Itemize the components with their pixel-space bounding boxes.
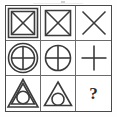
double-triangle-circle-icon (6, 77, 40, 111)
matrix-cell-r1c1[interactable] (6, 6, 41, 41)
matrix-cell-r2c1[interactable] (6, 41, 41, 76)
matrix-cell-r3c3-answer[interactable]: ? (76, 76, 111, 111)
matrix-cell-r2c2[interactable] (41, 41, 76, 76)
scan-artifact-speck (61, 1, 65, 3)
matrix-cell-r3c1[interactable] (6, 76, 41, 111)
matrix-cell-r1c3[interactable] (76, 6, 111, 41)
double-circle-plus-icon (6, 41, 40, 75)
matrix-grid: ? (5, 5, 112, 112)
plus-cross-icon (77, 41, 111, 75)
matrix-cell-r3c2[interactable] (41, 76, 76, 111)
x-cross-icon (77, 6, 111, 40)
matrix-reasoning-puzzle: ? (0, 0, 117, 117)
triangle-circle-icon (41, 77, 75, 111)
circle-plus-icon (41, 41, 75, 75)
matrix-cell-r2c3[interactable] (76, 41, 111, 76)
double-square-x-icon (6, 6, 40, 40)
question-mark: ? (89, 85, 98, 102)
square-x-icon (41, 6, 75, 40)
scan-artifact-line (33, 3, 83, 4)
matrix-cell-r1c2[interactable] (41, 6, 76, 41)
